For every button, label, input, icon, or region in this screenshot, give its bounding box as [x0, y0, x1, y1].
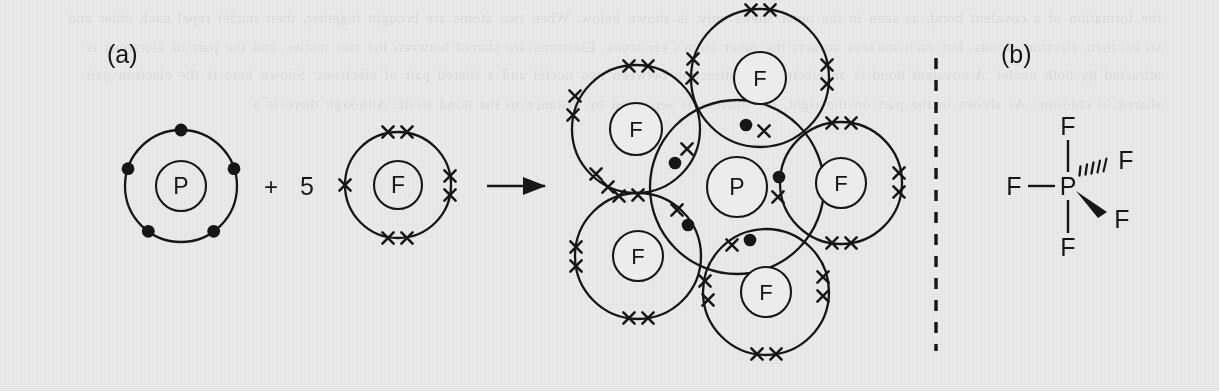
structural-f-down: F: [1060, 233, 1075, 261]
electron-cross: [893, 186, 904, 197]
electron-dot: [228, 162, 241, 175]
bond-p-f-hashed-wedge: [1080, 159, 1107, 176]
electron-cross: [632, 189, 643, 200]
structural-f-up: F: [1060, 112, 1075, 140]
bond-electron-dot: [682, 219, 695, 232]
electron-cross: [569, 90, 580, 101]
bond-electron-dot: [740, 119, 753, 132]
f-top-symbol: F: [753, 66, 766, 91]
bond-p-f-solid-wedge: [1076, 191, 1107, 218]
structural-p-symbol: P: [1060, 172, 1077, 200]
bond-electron-cross: [758, 125, 769, 136]
f-bottom-symbol: F: [759, 280, 772, 305]
bond-electron-cross: [681, 143, 692, 154]
bonding-pair-p-f-bottom: [726, 234, 756, 251]
f-right-symbol: F: [834, 171, 847, 196]
bond-electron-cross: [726, 239, 737, 250]
electron-cross: [602, 181, 613, 192]
electron-cross: [821, 78, 832, 89]
p-center-symbol: P: [729, 174, 744, 200]
bonding-pair-p-f-right: [772, 171, 785, 203]
electron-dot: [142, 225, 155, 238]
electron-cross: [893, 167, 904, 178]
figure-container: the formation of a covalent bond, as see…: [0, 0, 1219, 391]
pf5-dot-cross-molecule: P F F F F F: [567, 4, 904, 359]
f-symbol: F: [391, 172, 405, 198]
structural-f-hashed: F: [1118, 146, 1133, 174]
diagram-artwork: P + 5 F: [0, 0, 1219, 391]
electron-dot: [175, 124, 188, 137]
phosphorus-reactant-atom: P: [122, 124, 241, 242]
electron-dot: [122, 162, 135, 175]
bond-electron-dot: [669, 157, 682, 170]
bonding-pair-p-f-lower-left: [671, 204, 694, 231]
bonding-pair-p-f-top: [740, 119, 770, 137]
plus-sign: +: [264, 173, 278, 200]
electron-cross: [817, 290, 828, 301]
bond-electron-dot: [773, 171, 786, 184]
pf5-structural-formula: P F F F F F: [1006, 112, 1133, 261]
electron-dot: [207, 225, 220, 238]
structural-f-left: F: [1006, 172, 1021, 200]
f-lower-left-symbol: F: [631, 244, 644, 269]
structural-f-wedge: F: [1114, 205, 1129, 233]
f-upper-left-symbol: F: [629, 117, 642, 142]
coefficient-5: 5: [300, 172, 314, 200]
fluorine-reactant-atom: F: [339, 126, 455, 243]
p-symbol: P: [173, 173, 188, 199]
bond-electron-dot: [744, 234, 757, 247]
